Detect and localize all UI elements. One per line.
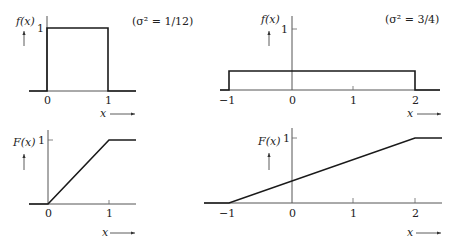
y-tick-1: 1 [283, 132, 290, 145]
x-tick-2: 2 [412, 94, 419, 107]
cdf-curve [204, 138, 442, 203]
x-tick-0: 0 [289, 94, 296, 107]
x-tick-0: 0 [289, 207, 296, 220]
x-tick-1: 1 [350, 207, 357, 220]
x-tick-0: 0 [44, 94, 51, 107]
cdf-plot-neg1-2: 1 −1 0 1 2 F(x) x [204, 128, 442, 239]
y-tick-1: 1 [281, 23, 288, 36]
x-tick-neg1: −1 [219, 207, 235, 220]
y-axis-label: F(x) [12, 136, 35, 149]
y-tick-1: 1 [37, 22, 44, 35]
x-tick-neg1: −1 [219, 94, 235, 107]
cdf-curve [29, 140, 136, 204]
y-tick-1: 1 [38, 134, 45, 147]
pdf-curve [29, 28, 136, 91]
pdf-curve [220, 71, 440, 90]
figure-canvas: 1 0 1 f(x) x (σ² = 1/12) 1 −1 0 1 2 f(x)… [0, 0, 454, 252]
x-tick-1: 1 [106, 207, 113, 220]
variance-annotation: (σ² = 1/12) [132, 15, 193, 28]
x-axis-label: x [407, 226, 414, 239]
x-tick-0: 0 [45, 207, 52, 220]
variance-annotation: (σ² = 3/4) [385, 13, 439, 26]
x-tick-1: 1 [105, 94, 112, 107]
x-axis-label: x [102, 226, 109, 239]
y-axis-label: f(x) [260, 13, 280, 26]
pdf-plot-0-1: 1 0 1 f(x) x (σ² = 1/12) [15, 15, 193, 120]
pdf-plot-neg1-2: 1 −1 0 1 2 f(x) x (σ² = 3/4) [219, 13, 441, 120]
y-axis-label: f(x) [15, 15, 35, 28]
x-axis-label: x [407, 107, 414, 120]
y-axis-label: F(x) [257, 135, 280, 148]
cdf-plot-0-1: 1 0 1 F(x) x [12, 130, 136, 239]
x-tick-1: 1 [350, 94, 357, 107]
x-axis-label: x [100, 107, 107, 120]
x-tick-2: 2 [412, 207, 419, 220]
